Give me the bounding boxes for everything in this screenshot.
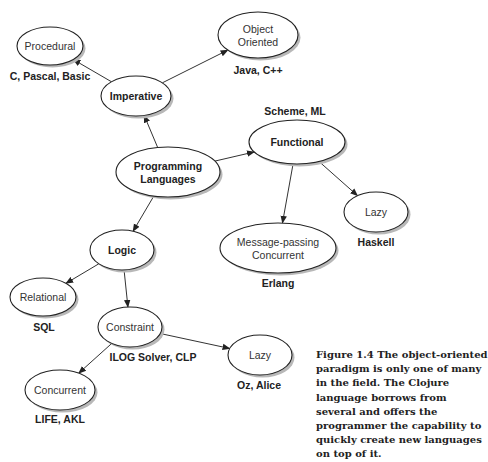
node-constraint: ConstraintILOG Solver, CLP — [98, 307, 196, 363]
node-label: Constraint — [106, 321, 154, 333]
example-languages-label: Erlang — [262, 277, 295, 289]
edge-programming-languages-to-logic — [133, 196, 154, 231]
edge-programming-languages-to-functional — [215, 152, 254, 161]
figure-caption: Figure 1.4 The object-oriented paradigm … — [316, 348, 488, 462]
node-procedural: ProceduralC, Pascal, Basic — [10, 27, 91, 82]
node-lazy-functional: LazyHaskell — [344, 192, 411, 248]
node-label: Procedural — [25, 40, 76, 52]
node-label: Languages — [140, 173, 196, 185]
node-label: Programming — [134, 160, 202, 172]
edge-constraint-to-lazy-logic — [160, 334, 229, 349]
node-functional: FunctionalScheme, ML — [249, 105, 348, 167]
edge-constraint-to-concurrent — [79, 343, 112, 373]
edge-logic-to-constraint — [124, 270, 128, 307]
node-logic: Logic — [90, 230, 157, 273]
edge-imperative-to-object-oriented — [162, 50, 227, 83]
node-label: Lazy — [249, 349, 272, 361]
node-lazy-logic: LazyOz, Alice — [228, 335, 295, 391]
node-label: Concurrent — [34, 384, 86, 396]
edge-functional-to-message-passing-concurrent — [282, 164, 293, 223]
node-object-oriented: ObjectOrientedJava, C++ — [218, 12, 301, 76]
example-languages-label: C, Pascal, Basic — [10, 70, 91, 82]
node-label: Relational — [20, 291, 67, 303]
node-relational: RelationalSQL — [10, 278, 79, 333]
example-languages-label: ILOG Solver, CLP — [110, 351, 197, 363]
node-label: Imperative — [110, 90, 163, 102]
example-languages-label: SQL — [33, 321, 55, 333]
node-label: Object — [243, 23, 273, 35]
node-label: Functional — [270, 136, 323, 148]
example-languages-label: Oz, Alice — [237, 379, 281, 391]
node-label: Message-passing — [237, 236, 319, 248]
node-concurrent: ConcurrentLIFE, AKL — [25, 370, 98, 425]
node-label: Logic — [108, 244, 136, 256]
edge-programming-languages-to-imperative — [144, 115, 157, 147]
example-languages-label: Haskell — [358, 236, 395, 248]
node-imperative: Imperative — [101, 76, 174, 119]
node-message-passing-concurrent: Message-passingConcurrentErlang — [220, 223, 339, 289]
example-languages-label: LIFE, AKL — [35, 413, 85, 425]
node-label: Concurrent — [252, 249, 304, 261]
example-languages-label: Scheme, ML — [264, 105, 326, 117]
node-label: Oriented — [238, 36, 278, 48]
node-label: Lazy — [365, 206, 388, 218]
edge-functional-to-lazy-functional — [319, 162, 358, 196]
node-programming-languages: ProgrammingLanguages — [116, 147, 223, 200]
example-languages-label: Java, C++ — [233, 64, 282, 76]
edge-logic-to-relational — [66, 264, 99, 284]
